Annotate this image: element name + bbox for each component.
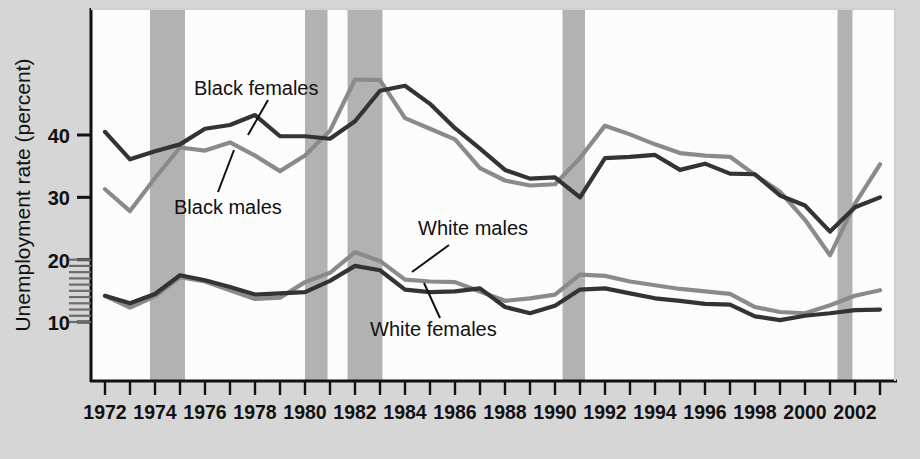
recession-band xyxy=(305,10,328,381)
x-tick-label: 1974 xyxy=(133,401,177,423)
x-tick-label: 1994 xyxy=(633,401,677,423)
x-tick-label: 1996 xyxy=(683,401,727,423)
recession-band xyxy=(838,10,853,381)
x-tick-label: 1998 xyxy=(733,401,777,423)
label-white-males: White males xyxy=(418,217,528,239)
x-tick-label: 2000 xyxy=(783,401,827,423)
y-tick-label: 30 xyxy=(48,187,70,209)
x-tick-label: 1980 xyxy=(283,401,327,423)
label-white-females: White females xyxy=(370,318,497,340)
x-tick-label: 1990 xyxy=(533,401,577,423)
y-tick-label: 40 xyxy=(48,125,70,147)
y-tick-label: 20 xyxy=(48,250,70,272)
x-tick-label: 1976 xyxy=(183,401,227,423)
x-tick-label: 1992 xyxy=(583,401,627,423)
y-tick-label: 10 xyxy=(48,312,70,334)
chart-svg: 10203040 1972197419761978198019821984198… xyxy=(0,0,920,459)
x-tick-label: 2002 xyxy=(833,401,877,423)
x-tick-label: 1986 xyxy=(433,401,477,423)
x-tick-label: 1972 xyxy=(83,401,127,423)
y-axis-title: Unemployment rate (percent) xyxy=(11,58,34,331)
x-tick-label: 1988 xyxy=(483,401,527,423)
x-tick-label: 1982 xyxy=(333,401,377,423)
label-black-females: Black females xyxy=(194,77,319,99)
x-tick-label: 1978 xyxy=(233,401,277,423)
chart-figure: 10203040 1972197419761978198019821984198… xyxy=(0,0,920,459)
label-black-males: Black males xyxy=(174,196,282,218)
x-tick-label: 1984 xyxy=(383,401,427,423)
